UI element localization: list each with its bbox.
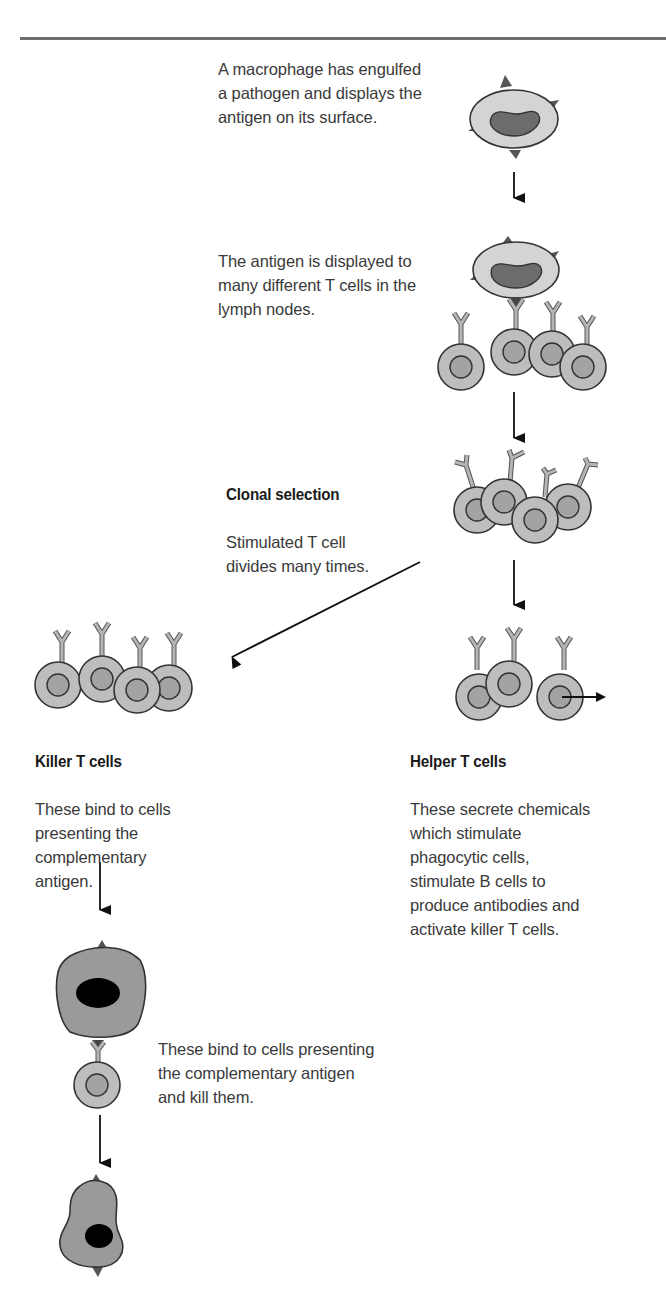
killer-t-cells-icon [35, 623, 192, 713]
helper-t-cells-icon [456, 628, 606, 720]
helper-caption: These secrete chemicals which stimulate … [410, 800, 590, 938]
target-cell-icon [57, 940, 146, 1108]
clonal-selection-title: Clonal selection [226, 482, 358, 506]
presentation-caption: The antigen is displayed to many differe… [218, 249, 416, 321]
dying-cell-icon [60, 1174, 123, 1277]
helper-title: Helper T cells [410, 749, 576, 773]
clonal-selection-caption: Stimulated T cell divides many times. [226, 533, 369, 575]
clonal-t-cells-icon [454, 450, 598, 543]
clonal-selection-block: Clonal selection Stimulated T cell divid… [226, 458, 369, 578]
killer-caption: These bind to cells presenting the compl… [35, 800, 171, 890]
helper-block: Helper T cells These secrete chemicals w… [410, 725, 590, 941]
macrophage-icon [468, 75, 559, 159]
kill-caption: These bind to cells presenting the compl… [158, 1037, 374, 1109]
macrophage-caption: A macrophage has engulfed a pathogen and… [218, 57, 422, 129]
killer-title: Killer T cells [35, 749, 160, 773]
antigen-presentation-icon [438, 236, 606, 390]
killer-block: Killer T cells These bind to cells prese… [35, 725, 171, 893]
